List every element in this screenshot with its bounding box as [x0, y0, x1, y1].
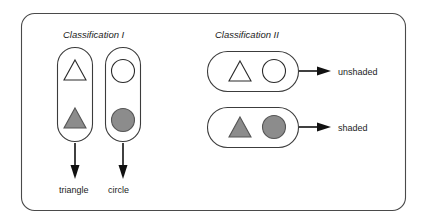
- label-shaded: shaded: [338, 123, 368, 133]
- heading-classification-1: Classification I: [63, 29, 125, 40]
- arrowhead-right-shaded: [317, 123, 331, 132]
- arrow-to-circle-label: [119, 143, 128, 179]
- arrow-to-shaded-label: [299, 123, 331, 132]
- heading-classification-2: Classification II: [215, 29, 279, 40]
- arrow-to-unshaded-label: [299, 67, 331, 76]
- diagram-canvas: Classification I Classification II unsha…: [0, 0, 427, 223]
- label-triangle: triangle: [59, 185, 89, 195]
- group-shaded-row: [208, 108, 299, 148]
- group-triangle-column: [58, 48, 93, 142]
- shape-circle-unshaded-row: [263, 60, 286, 83]
- classification-diagram: Classification I Classification II unsha…: [0, 0, 427, 223]
- label-circle: circle: [108, 185, 129, 195]
- arrowhead-right-unshaded: [317, 67, 331, 76]
- shape-circle-shaded: [112, 109, 135, 132]
- label-unshaded: unshaded: [338, 67, 378, 77]
- shape-circle-shaded-row: [263, 116, 286, 139]
- shape-circle-unshaded: [112, 60, 135, 83]
- group-circle-column: [106, 48, 141, 142]
- arrowhead-down-triangle: [71, 165, 80, 179]
- group-unshaded-row: [208, 52, 299, 92]
- arrowhead-down-circle: [119, 165, 128, 179]
- arrow-to-triangle-label: [71, 143, 80, 179]
